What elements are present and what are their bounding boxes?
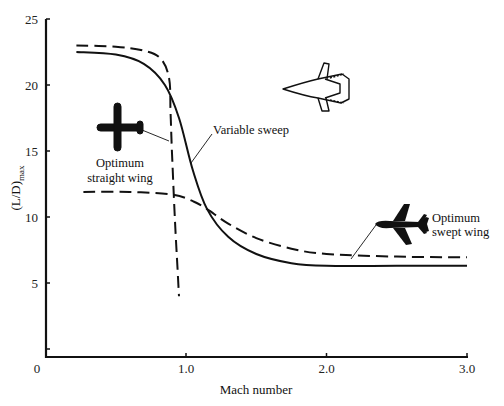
label-swept-wing-2: swept wing (432, 225, 490, 239)
y-axis-title: (L/D)max (8, 165, 26, 211)
label-variable-sweep: Variable sweep (213, 123, 289, 137)
lift-drag-chart: 510152025 01.02.03.0 Mach number (L/D)ma… (0, 0, 504, 406)
y-axis-title-sub: max (16, 165, 26, 181)
leader-variable-sweep (191, 134, 212, 163)
x-tick-label: 0 (34, 361, 41, 376)
label-straight-wing-1: Optimum (96, 156, 144, 170)
swept-wing-aircraft-icon (375, 204, 429, 245)
x-tick-label: 2.0 (318, 361, 334, 376)
y-tick-label: 5 (32, 276, 39, 291)
y-tick-label: 20 (25, 78, 38, 93)
x-tick-label: 1.0 (178, 361, 194, 376)
leader-straight-wing (142, 130, 169, 141)
y-tick-label: 25 (25, 12, 38, 27)
svg-text:(L/D)max: (L/D)max (8, 165, 26, 211)
x-axis-title: Mach number (220, 382, 293, 397)
x-tick-label: 3.0 (459, 361, 475, 376)
label-straight-wing-2: straight wing (87, 171, 153, 185)
y-tick-label: 10 (25, 210, 38, 225)
axes: 510152025 01.02.03.0 (25, 12, 475, 376)
leader-swept-wing (351, 225, 376, 259)
y-tick-label: 15 (25, 144, 38, 159)
variable-sweep-aircraft-icon (283, 63, 349, 111)
straight-wing-aircraft-icon (97, 103, 143, 151)
y-axis-title-main: (L/D) (8, 181, 23, 211)
label-swept-wing-1: Optimum (432, 211, 480, 225)
